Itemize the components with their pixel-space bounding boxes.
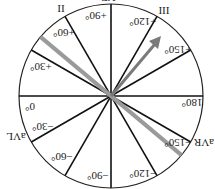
lead-avr-label: aVR — [193, 137, 214, 149]
hexaxial-diagram: 0° +30° +60° +90° +120° +150° 180° −30° … — [0, 0, 215, 189]
label-minus90: −90° — [87, 170, 109, 182]
lead-ii-label: II — [57, 3, 65, 15]
label-plus30: +30° — [30, 61, 52, 73]
label-plus60: +60° — [53, 27, 75, 39]
label-minus150: −150° — [164, 137, 191, 149]
lead-avf-label: aVF — [102, 0, 121, 4]
label-plus120: +120° — [129, 16, 156, 28]
label-minus60: −60° — [51, 151, 73, 163]
label-minus30: −30° — [32, 121, 54, 133]
label-0: 0° — [25, 101, 35, 113]
lead-avl-label: aVL — [6, 131, 26, 143]
mean-axis-arrow — [111, 36, 161, 96]
label-plus90: +90° — [85, 10, 107, 22]
label-minus120: −120° — [129, 168, 156, 180]
label-180: 180° — [182, 97, 203, 109]
lead-iii-label: III — [158, 5, 169, 17]
label-plus150: +150° — [164, 44, 191, 56]
